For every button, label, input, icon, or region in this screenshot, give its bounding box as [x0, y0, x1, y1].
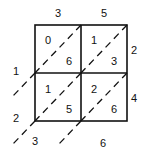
cell-1-1-ones: 6 [111, 104, 117, 115]
cell-0-1-ones: 3 [111, 56, 117, 67]
right-digit-1: 2 [131, 45, 137, 56]
cell-0-0-tens: 0 [45, 35, 51, 46]
left-result-digit-1: 1 [13, 66, 19, 77]
cell-0-1-tens: 1 [91, 35, 97, 46]
bottom-result-digit-2: 6 [100, 138, 106, 149]
bottom-result-digit-1: 3 [32, 136, 38, 147]
lattice-grid [0, 0, 146, 151]
cell-1-1-tens: 2 [91, 84, 97, 95]
cell-1-0-tens: 1 [45, 84, 51, 95]
cell-0-0-ones: 6 [66, 56, 72, 67]
left-result-digit-2: 2 [13, 113, 19, 124]
top-digit-1: 3 [55, 8, 61, 19]
right-digit-2: 4 [131, 93, 137, 104]
top-digit-2: 5 [101, 8, 107, 19]
cell-1-0-ones: 5 [66, 104, 72, 115]
